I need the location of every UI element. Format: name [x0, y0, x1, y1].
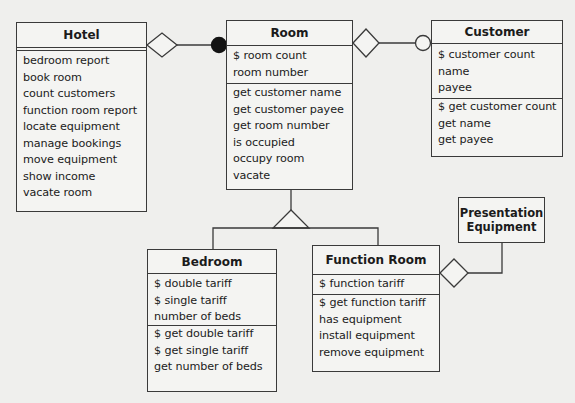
- operation: occupy room: [233, 151, 352, 168]
- class-function-room-name: Function Room: [313, 246, 439, 275]
- optional-multiplicity-circle: [416, 36, 431, 51]
- attribute: $ room count: [233, 48, 352, 65]
- aggregation-diamond-functionroom-equipment: [440, 259, 468, 287]
- attribute: $ single tariff: [154, 293, 276, 310]
- attribute: name: [438, 64, 562, 81]
- operation: has equipment: [319, 312, 439, 329]
- class-room-name: Room: [227, 21, 352, 46]
- many-multiplicity-dot: [212, 38, 227, 53]
- operation: remove equipment: [319, 345, 439, 362]
- attribute: number of beds: [154, 309, 276, 326]
- class-presentation-equipment-name-line2: Equipment: [467, 220, 537, 234]
- class-bedroom-attributes: $ double tariff $ single tariff number o…: [148, 274, 276, 326]
- operation: book room: [23, 70, 146, 87]
- operation: get room number: [233, 118, 352, 135]
- class-bedroom-operations: $ get double tariff $ get single tariff …: [148, 326, 276, 378]
- class-hotel[interactable]: Hotel bedroom report book room count cus…: [16, 22, 147, 212]
- association-line-functionroom-equipment: [468, 243, 502, 273]
- operation: $ get double tariff: [154, 326, 276, 343]
- class-presentation-equipment-name-line1: Presentation: [460, 206, 544, 220]
- class-customer-operations: $ get customer count get name get payee: [432, 99, 562, 151]
- operation: show income: [23, 169, 146, 186]
- class-room-attributes: $ room count room number: [227, 46, 352, 84]
- class-bedroom-name: Bedroom: [148, 250, 276, 274]
- aggregation-diamond-room-customer: [353, 29, 379, 57]
- attribute: room number: [233, 65, 352, 82]
- operation: $ get customer count: [438, 99, 562, 116]
- attribute: payee: [438, 80, 562, 97]
- operation: get payee: [438, 132, 562, 149]
- attribute: $ double tariff: [154, 276, 276, 293]
- class-function-room-operations: $ get function tariff has equipment inst…: [313, 295, 439, 363]
- class-customer-name: Customer: [432, 21, 562, 44]
- generalization-triangle: [273, 210, 309, 228]
- attribute: $ function tariff: [319, 276, 439, 293]
- class-bedroom[interactable]: Bedroom $ double tariff $ single tariff …: [147, 249, 277, 392]
- attribute: $ customer count: [438, 47, 562, 64]
- operation: $ get single tariff: [154, 343, 276, 360]
- operation: is occupied: [233, 135, 352, 152]
- operation: function room report: [23, 103, 146, 120]
- operation: vacate: [233, 168, 352, 185]
- operation: move equipment: [23, 152, 146, 169]
- operation: get customer name: [233, 85, 352, 102]
- operation: install equipment: [319, 328, 439, 345]
- operation: get name: [438, 116, 562, 133]
- operation: bedroom report: [23, 53, 146, 70]
- operation: count customers: [23, 86, 146, 103]
- class-customer[interactable]: Customer $ customer count name payee $ g…: [431, 20, 563, 157]
- class-customer-attributes: $ customer count name payee: [432, 44, 562, 99]
- class-room-operations: get customer name get customer payee get…: [227, 84, 352, 186]
- operation: get customer payee: [233, 102, 352, 119]
- operation: manage bookings: [23, 136, 146, 153]
- operation: get number of beds: [154, 359, 276, 376]
- class-hotel-name: Hotel: [17, 23, 146, 51]
- class-room[interactable]: Room $ room count room number get custom…: [226, 20, 353, 190]
- operation: vacate room: [23, 185, 146, 202]
- operation: locate equipment: [23, 119, 146, 136]
- aggregation-diamond-hotel-room: [147, 33, 177, 57]
- class-hotel-operations: bedroom report book room count customers…: [17, 51, 146, 204]
- class-presentation-equipment[interactable]: Presentation Equipment: [458, 197, 545, 243]
- class-function-room-attributes: $ function tariff: [313, 275, 439, 295]
- operation: $ get function tariff: [319, 295, 439, 312]
- class-function-room[interactable]: Function Room $ function tariff $ get fu…: [312, 245, 440, 372]
